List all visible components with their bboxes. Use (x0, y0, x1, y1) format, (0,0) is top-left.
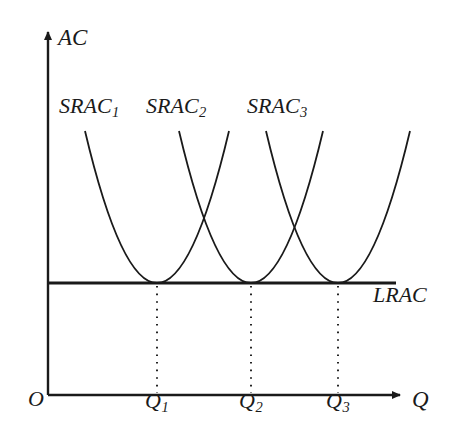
tick-label-q3-subscript: 3 (342, 399, 350, 415)
tick-label-q1-subscript: 1 (161, 399, 169, 415)
tick-label-q3-base: Q (326, 388, 342, 413)
srac2-label-subscript: 2 (199, 104, 207, 120)
tick-label-q2-subscript: 2 (255, 399, 263, 415)
srac1-label-base: SRAC (59, 93, 112, 118)
srac1-curve (85, 131, 229, 283)
cost-curve-diagram: AC Q O SRAC1 SRAC2 SRAC3 LRAC Q1 Q2 Q3 (0, 0, 464, 446)
srac2-label-base: SRAC (146, 93, 199, 118)
srac3-curve (266, 131, 410, 283)
x-axis-label: Q (412, 388, 429, 411)
srac3-label-base: SRAC (247, 93, 300, 118)
lrac-label: LRAC (373, 284, 427, 306)
srac3-label: SRAC3 (247, 95, 307, 120)
srac2-curve (179, 131, 323, 283)
tick-label-q3: Q3 (326, 390, 350, 415)
srac3-label-subscript: 3 (300, 104, 308, 120)
tick-label-q1: Q1 (145, 390, 169, 415)
srac2-label: SRAC2 (146, 95, 206, 120)
srac1-label-subscript: 1 (112, 104, 120, 120)
y-axis-label: AC (58, 26, 87, 49)
tick-label-q2-base: Q (239, 388, 255, 413)
srac1-label: SRAC1 (59, 95, 119, 120)
origin-label: O (28, 388, 44, 410)
tick-label-q1-base: Q (145, 388, 161, 413)
tick-label-q2: Q2 (239, 390, 263, 415)
diagram-canvas (0, 0, 464, 446)
